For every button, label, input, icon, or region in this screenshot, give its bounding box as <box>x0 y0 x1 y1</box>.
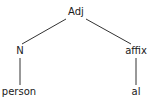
node-n: N <box>16 45 23 57</box>
node-root: Adj <box>68 6 84 18</box>
leaf-al: al <box>132 86 141 98</box>
node-affix: affix <box>125 45 147 57</box>
edge-adj-affix <box>86 19 131 44</box>
leaf-person: person <box>2 86 36 98</box>
edge-adj-n <box>22 19 66 44</box>
tree-diagram: Adj N affix person al <box>0 0 162 105</box>
